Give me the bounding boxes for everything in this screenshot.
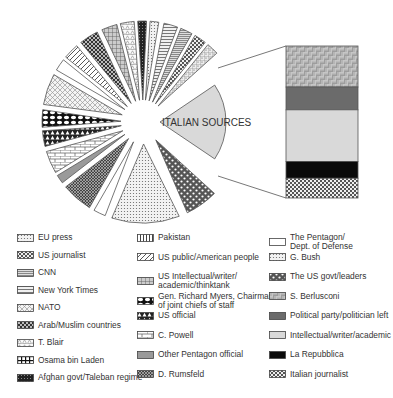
legend-item: Political party/politician left bbox=[269, 311, 388, 320]
legend-swatch-icon bbox=[137, 370, 154, 378]
legend-swatch-icon bbox=[269, 312, 286, 320]
legend-label: Gen. Richard Myers, Chairman of joint ch… bbox=[158, 292, 273, 310]
legend-swatch-icon bbox=[269, 351, 286, 359]
legend-label: The US govt/leaders bbox=[290, 272, 366, 281]
legend-swatch-icon bbox=[269, 292, 286, 300]
legend-label: CNN bbox=[38, 268, 56, 277]
bar-segment bbox=[286, 162, 358, 179]
legend-label: Arab/Muslim countries bbox=[38, 321, 121, 330]
bar-segment bbox=[286, 46, 358, 87]
legend-label: The Pentagon/ Dept. of Defense bbox=[290, 233, 353, 251]
legend-item: Other Pentagon official bbox=[137, 350, 243, 359]
legend-swatch-icon bbox=[269, 370, 286, 378]
legend-swatch-icon bbox=[17, 286, 34, 294]
legend-item: US journalist bbox=[17, 251, 85, 260]
legend-label: Italian journalist bbox=[290, 370, 348, 379]
legend-swatch-icon bbox=[17, 339, 34, 347]
legend-swatch-icon bbox=[137, 277, 154, 285]
bar-segment bbox=[286, 110, 358, 162]
legend-item: US Intellectual/writer/ academic/thinkta… bbox=[137, 272, 237, 290]
legend-label: Political party/politician left bbox=[290, 311, 388, 320]
legend-swatch-icon bbox=[17, 321, 34, 329]
legend-swatch-icon bbox=[17, 304, 34, 312]
legend-label: New York Times bbox=[38, 286, 98, 295]
connector-top bbox=[218, 46, 286, 68]
legend-swatch-icon bbox=[17, 234, 34, 242]
legend-swatch-icon bbox=[17, 269, 34, 277]
legend-item: La Repubblica bbox=[269, 350, 344, 359]
legend-item: NATO bbox=[17, 303, 61, 312]
pie-chart: ITALIAN SOURCES bbox=[0, 0, 393, 230]
legend-item: US official bbox=[137, 311, 196, 320]
bar-segment bbox=[286, 87, 358, 110]
legend-label: US official bbox=[158, 311, 196, 320]
bar-segment bbox=[286, 178, 358, 198]
legend-item: S. Berlusconi bbox=[269, 292, 339, 301]
legend-item: C. Powell bbox=[137, 331, 193, 340]
legend-item: Italian journalist bbox=[269, 370, 348, 379]
legend-swatch-icon bbox=[17, 251, 34, 259]
italian-sources-label: ITALIAN SOURCES bbox=[162, 117, 252, 128]
legend-label: Intellectual/writer/academic bbox=[290, 331, 391, 340]
legend-swatch-icon bbox=[137, 234, 154, 242]
legend-swatch-icon bbox=[137, 331, 154, 339]
legend-item: New York Times bbox=[17, 286, 98, 295]
italian-sources-bar bbox=[286, 46, 358, 198]
legend-swatch-icon bbox=[17, 374, 34, 382]
legend-swatch-icon bbox=[269, 273, 286, 281]
legend-item: CNN bbox=[17, 268, 56, 277]
legend-item: US public/American people bbox=[137, 253, 259, 262]
connector-bottom bbox=[218, 176, 286, 198]
legend-label: NATO bbox=[38, 303, 61, 312]
legend-item: D. Rumsfeld bbox=[137, 370, 204, 379]
legend-label: T. Blair bbox=[38, 338, 64, 347]
legend-item: Intellectual/writer/academic bbox=[269, 331, 391, 340]
legend-label: C. Powell bbox=[158, 331, 193, 340]
legend-item: G. Bush bbox=[269, 253, 320, 262]
legend-item: Osama bin Laden bbox=[17, 356, 104, 365]
legend-swatch-icon bbox=[137, 253, 154, 261]
legend-label: G. Bush bbox=[290, 253, 320, 262]
legend-item: The US govt/leaders bbox=[269, 272, 366, 281]
legend-item: Arab/Muslim countries bbox=[17, 321, 121, 330]
legend-item: Afghan govt/Taleban regime bbox=[17, 373, 142, 382]
legend-item: T. Blair bbox=[17, 338, 64, 347]
legend-label: D. Rumsfeld bbox=[158, 370, 204, 379]
legend-label: Other Pentagon official bbox=[158, 350, 243, 359]
legend-label: Afghan govt/Taleban regime bbox=[38, 373, 142, 382]
legend-swatch-icon bbox=[137, 351, 154, 359]
legend: EU pressUS journalistCNNNew York TimesNA… bbox=[0, 228, 393, 398]
legend-label: Osama bin Laden bbox=[38, 356, 104, 365]
legend-label: US journalist bbox=[38, 251, 85, 260]
legend-item: Pakistan bbox=[137, 233, 190, 242]
legend-swatch-icon bbox=[137, 297, 154, 305]
legend-label: EU press bbox=[38, 233, 72, 242]
pie-slice bbox=[44, 75, 123, 115]
legend-label: US Intellectual/writer/ academic/thinkta… bbox=[158, 272, 237, 290]
legend-item: The Pentagon/ Dept. of Defense bbox=[269, 233, 353, 251]
legend-label: S. Berlusconi bbox=[290, 292, 339, 301]
legend-label: US public/American people bbox=[158, 253, 259, 262]
legend-item: EU press bbox=[17, 233, 72, 242]
legend-swatch-icon bbox=[269, 238, 286, 246]
legend-label: Pakistan bbox=[158, 233, 190, 242]
legend-label: La Repubblica bbox=[290, 350, 344, 359]
legend-swatch-icon bbox=[17, 356, 34, 364]
legend-swatch-icon bbox=[269, 253, 286, 261]
legend-swatch-icon bbox=[137, 312, 154, 320]
legend-swatch-icon bbox=[269, 331, 286, 339]
legend-item: Gen. Richard Myers, Chairman of joint ch… bbox=[137, 292, 273, 310]
